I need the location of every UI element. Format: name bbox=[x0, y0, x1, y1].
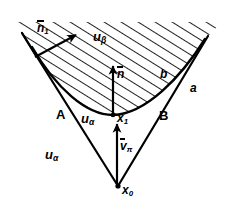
label-normal-n: n bbox=[117, 68, 124, 80]
label-curve-b: b bbox=[160, 68, 167, 80]
label-velocity-v-pi-text: v bbox=[120, 140, 127, 152]
label-u-alpha-low: uα bbox=[45, 148, 58, 163]
diagram-svg bbox=[0, 0, 229, 205]
point-marker-x1 bbox=[111, 113, 116, 118]
label-edge-B: B bbox=[159, 109, 168, 122]
label-u-alpha-mid: uα bbox=[81, 112, 94, 127]
label-normal-n1: n1 bbox=[37, 22, 49, 36]
label-point-x1: x1 bbox=[117, 112, 128, 126]
label-normal-n1-text: n bbox=[37, 22, 44, 34]
label-u-beta: uβ bbox=[93, 30, 106, 45]
u-beta-hatched-region bbox=[0, 0, 229, 205]
point-marker-x0 bbox=[115, 183, 120, 188]
label-normal-n-text: n bbox=[117, 68, 124, 80]
label-point-x0: x0 bbox=[122, 184, 133, 198]
label-curve-a: a bbox=[190, 82, 197, 94]
figure-canvas: n1 uβ n b a A B uα x1 vπ uα x0 bbox=[0, 0, 229, 205]
label-velocity-v-pi: vπ bbox=[120, 140, 132, 154]
label-edge-A: A bbox=[56, 108, 65, 121]
